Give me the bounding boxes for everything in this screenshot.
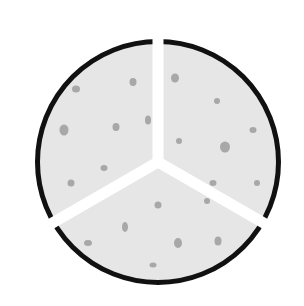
colony-spot xyxy=(171,74,179,83)
colony-spot xyxy=(215,237,222,246)
colony-spot xyxy=(214,98,220,104)
colony-spot xyxy=(204,198,210,204)
plate xyxy=(38,31,279,283)
colony-spot xyxy=(72,86,80,93)
colony-spot xyxy=(210,180,217,186)
colony-spot xyxy=(68,180,75,187)
colony-spot xyxy=(145,116,151,125)
colony-spot xyxy=(84,240,92,246)
three-sector-plate-diagram xyxy=(0,0,304,306)
colony-spot xyxy=(155,202,162,209)
colony-spot xyxy=(220,142,230,153)
colony-spot xyxy=(176,138,182,144)
colony-spot xyxy=(60,125,69,136)
colony-spot xyxy=(130,78,137,86)
colony-spot xyxy=(254,180,260,186)
colony-spot xyxy=(250,127,257,133)
divider-junction xyxy=(153,157,164,168)
colony-spot xyxy=(150,263,157,268)
colony-spot xyxy=(174,238,182,248)
colony-spot xyxy=(101,165,108,171)
colony-spot xyxy=(113,123,120,131)
colony-spot xyxy=(122,222,128,232)
